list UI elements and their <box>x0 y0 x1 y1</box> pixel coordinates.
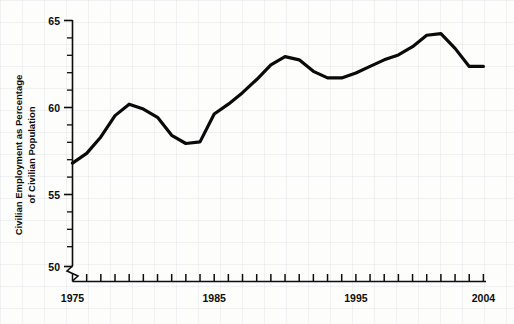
data-series-line <box>73 34 484 164</box>
y-tick-label-55: 55 <box>48 189 60 201</box>
y-axis-title-line2: of Civilian Population <box>26 106 37 203</box>
chart-screenshot: 65 60 55 50 1975 1985 1995 2004 Civilian… <box>0 0 514 324</box>
y-axis-title: Civilian Employment as Percentage of Civ… <box>13 75 37 236</box>
y-tick-label-65: 65 <box>48 15 60 27</box>
x-tick-label-1985: 1985 <box>203 292 227 304</box>
y-tick-label-50: 50 <box>48 261 60 273</box>
y-axis-title-line1: Civilian Employment as Percentage <box>13 75 24 236</box>
y-axis-tick-labels: 65 60 55 50 <box>48 15 60 273</box>
x-tick-label-1975: 1975 <box>61 292 85 304</box>
x-tick-label-2004: 2004 <box>472 292 496 304</box>
y-tick-label-60: 60 <box>48 102 60 114</box>
line-chart: 65 60 55 50 1975 1985 1995 2004 Civilian… <box>0 0 514 324</box>
x-axis-ticks <box>73 274 484 282</box>
y-axis-minor-ticks <box>67 38 73 247</box>
x-tick-label-1995: 1995 <box>344 292 368 304</box>
x-axis-tick-labels: 1975 1985 1995 2004 <box>61 292 495 304</box>
